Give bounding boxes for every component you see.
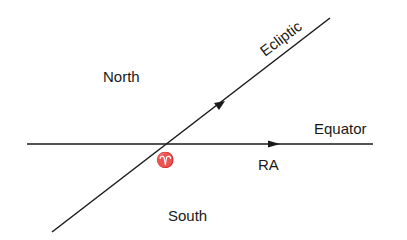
vernal-equinox-symbol: ♈ bbox=[156, 151, 175, 169]
south-label: South bbox=[168, 207, 207, 224]
ra-label: RA bbox=[258, 156, 279, 173]
ecliptic-line bbox=[52, 18, 330, 232]
ecliptic-label: Ecliptic bbox=[257, 17, 306, 59]
north-label: North bbox=[103, 68, 140, 85]
celestial-diagram: North South Equator RA Ecliptic ♈ bbox=[0, 0, 407, 240]
equator-label: Equator bbox=[314, 120, 367, 137]
ra-direction-arrow bbox=[268, 141, 280, 148]
